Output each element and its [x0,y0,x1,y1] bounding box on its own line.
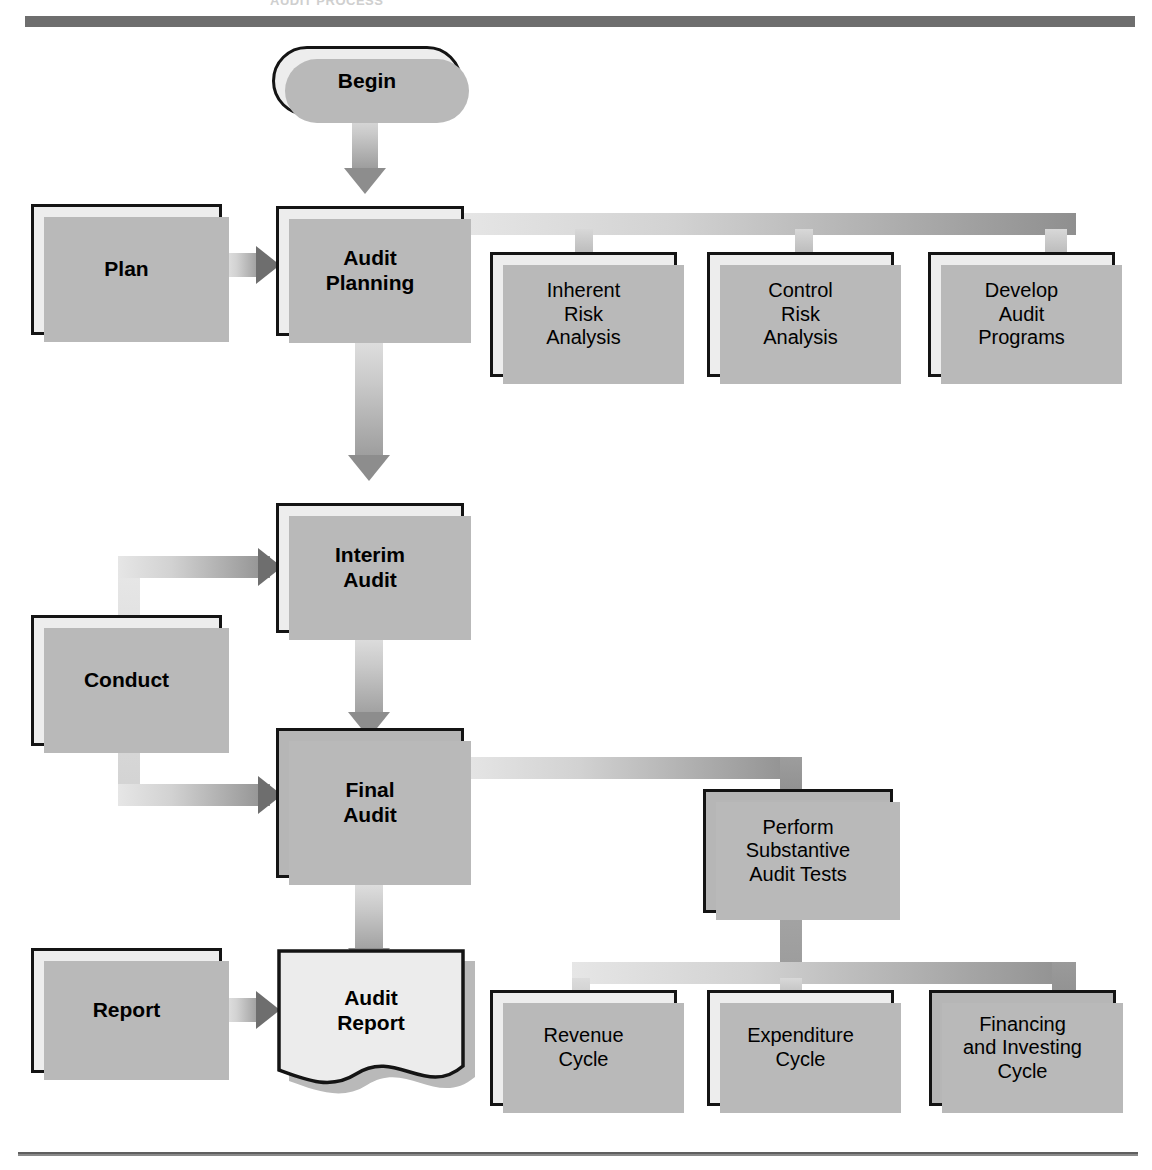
connector-bus-audit-planning [459,213,1076,235]
node-inherent-risk-line1: Inherent [547,279,620,301]
node-perform-substantive-audit-tests[interactable]: Perform Substantive Audit Tests [703,789,893,913]
node-final-audit[interactable]: Final Audit [276,728,464,878]
cropped-header-text: AUDIT PROCESS [270,0,383,8]
node-audit-planning-line2: Planning [326,271,415,294]
node-financing-cycle-label: Financing and Investing Cycle [957,1013,1088,1084]
node-develop-audit-programs-label: Develop Audit Programs [972,279,1071,350]
node-control-risk-line2: Risk [781,303,820,325]
node-inherent-risk-analysis[interactable]: Inherent Risk Analysis [490,252,677,377]
connector-bus-final-audit [461,757,798,779]
node-report-label: Report [87,998,167,1023]
node-develop-audit-programs[interactable]: Develop Audit Programs [928,252,1115,377]
node-control-risk-line3: Analysis [763,326,837,348]
node-inherent-risk-line3: Analysis [546,326,620,348]
node-conduct[interactable]: Conduct [31,615,222,746]
node-conduct-label: Conduct [78,668,175,693]
node-interim-audit-label: Interim Audit [329,543,411,593]
node-begin[interactable]: Begin [272,46,462,116]
node-expenditure-cycle-line2: Cycle [775,1048,825,1070]
node-expenditure-cycle-label: Expenditure Cycle [741,1024,860,1071]
node-perform-substantive-line1: Perform [762,816,833,838]
node-audit-report-line1: Audit [344,986,398,1009]
node-revenue-cycle-line2: Cycle [558,1048,608,1070]
bottom-rule [18,1152,1138,1156]
node-audit-report-label: Audit Report [276,948,466,1074]
diagram-canvas: AUDIT PROCESS Begin Plan [0,0,1152,1170]
node-control-risk-line1: Control [768,279,832,301]
connector-final-audit-to-audit-report [355,878,383,956]
top-rule [25,16,1135,27]
connector-interim-to-final-audit [355,630,383,720]
node-interim-audit[interactable]: Interim Audit [276,503,464,633]
node-report[interactable]: Report [31,948,222,1073]
node-financing-and-investing-cycle[interactable]: Financing and Investing Cycle [929,990,1116,1106]
node-revenue-cycle[interactable]: Revenue Cycle [490,990,677,1106]
node-control-risk-analysis[interactable]: Control Risk Analysis [707,252,894,377]
node-develop-programs-line2: Audit [999,303,1045,325]
node-perform-substantive-label: Perform Substantive Audit Tests [740,816,857,887]
node-final-audit-line1: Final [345,778,394,801]
node-final-audit-line2: Audit [343,803,397,826]
node-control-risk-analysis-label: Control Risk Analysis [757,279,843,350]
node-interim-audit-line1: Interim [335,543,405,566]
node-begin-label: Begin [332,69,402,94]
node-audit-planning-label: Audit Planning [320,246,421,296]
node-perform-substantive-line3: Audit Tests [749,863,846,885]
node-audit-planning-line1: Audit [343,246,397,269]
node-revenue-cycle-line1: Revenue [543,1024,623,1046]
node-plan-label: Plan [98,257,154,282]
node-perform-substantive-line2: Substantive [746,839,851,861]
node-financing-cycle-line3: Cycle [997,1060,1047,1082]
node-develop-programs-line3: Programs [978,326,1065,348]
node-expenditure-cycle[interactable]: Expenditure Cycle [707,990,894,1106]
node-develop-programs-line1: Develop [985,279,1058,301]
node-audit-report[interactable]: Audit Report [276,948,466,1100]
connector-bus-cycles [572,962,1076,984]
node-final-audit-label: Final Audit [337,778,403,828]
node-financing-cycle-line2: and Investing [963,1036,1082,1058]
connector-conduct-to-interim-audit [118,556,270,578]
node-audit-report-line2: Report [337,1011,405,1034]
connector-audit-planning-to-interim-audit [355,332,383,460]
arrowhead-begin-to-audit-planning [344,168,386,194]
arrowhead-audit-planning-to-interim-audit [348,455,390,481]
node-inherent-risk-line2: Risk [564,303,603,325]
connector-conduct-to-final-audit [118,784,270,806]
node-audit-planning[interactable]: Audit Planning [276,206,464,336]
node-revenue-cycle-label: Revenue Cycle [537,1024,629,1071]
node-plan[interactable]: Plan [31,204,222,335]
node-expenditure-cycle-line1: Expenditure [747,1024,854,1046]
node-interim-audit-line2: Audit [343,568,397,591]
node-financing-cycle-line1: Financing [979,1013,1066,1035]
node-inherent-risk-analysis-label: Inherent Risk Analysis [540,279,626,350]
